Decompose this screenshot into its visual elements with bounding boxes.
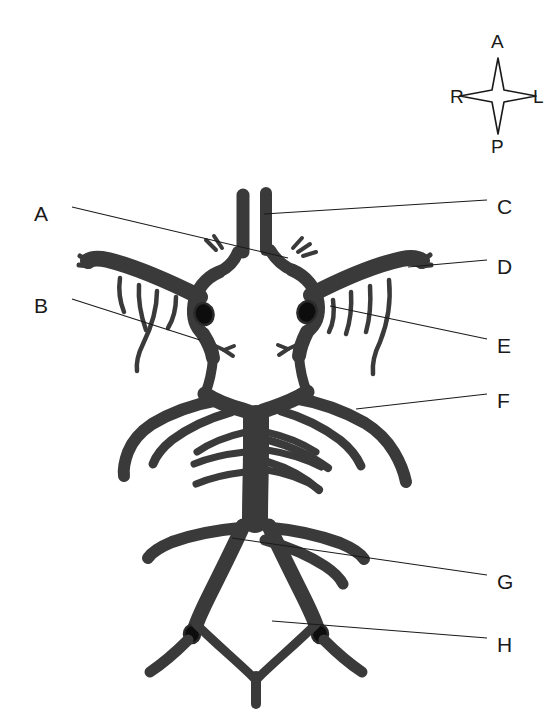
label-h[interactable]: H	[497, 634, 512, 655]
label-c[interactable]: C	[497, 196, 512, 217]
label-b[interactable]: B	[34, 295, 48, 316]
leader-line-a	[72, 207, 288, 258]
leader-line-h	[272, 621, 487, 638]
label-f[interactable]: F	[497, 390, 510, 411]
diagram-page: A L P R	[0, 0, 552, 724]
leader-line-e	[330, 306, 487, 339]
leader-line-b	[72, 299, 200, 340]
label-d[interactable]: D	[497, 256, 512, 277]
leader-lines	[0, 0, 552, 724]
label-g[interactable]: G	[497, 571, 513, 592]
label-e[interactable]: E	[497, 335, 511, 356]
label-a[interactable]: A	[34, 203, 48, 224]
leader-line-c	[264, 200, 487, 214]
leader-line-g	[232, 538, 487, 575]
leader-line-d	[408, 260, 487, 267]
leader-line-f	[356, 394, 487, 409]
